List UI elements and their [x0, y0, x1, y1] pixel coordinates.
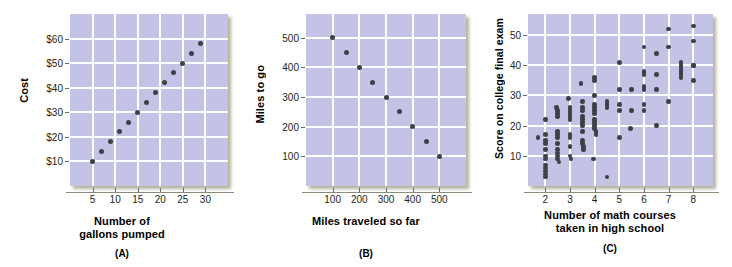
gridline-horizontal: [306, 155, 466, 157]
x-axis-tick-label: 7: [666, 194, 672, 205]
panel-a-x-axis-label: Number of gallons pumped: [0, 215, 244, 241]
gridline-horizontal: [528, 125, 713, 127]
x-axis-tick-mark: [439, 188, 440, 192]
data-point: [691, 78, 696, 83]
y-axis-tick-label: 200: [282, 121, 299, 132]
y-axis-tick-label: 30: [510, 90, 521, 101]
y-axis-tick-label: $50: [46, 58, 63, 69]
data-point: [568, 117, 573, 122]
y-axis-tick-mark: [65, 39, 69, 40]
x-axis-tick-mark: [644, 188, 645, 192]
data-point: [555, 114, 560, 119]
data-point: [628, 126, 633, 131]
y-axis-tick-mark: [301, 127, 305, 128]
data-point: [654, 51, 659, 56]
x-axis-tick-mark: [619, 188, 620, 192]
data-point: [580, 129, 585, 134]
x-axis-tick-label: 20: [155, 194, 166, 205]
panel-a-x-axis-label-line2: gallons pumped: [79, 228, 165, 240]
x-axis-tick-label: 100: [324, 194, 341, 205]
data-point: [579, 81, 584, 86]
data-point: [536, 135, 541, 140]
data-point: [691, 63, 696, 68]
y-axis-tick-mark: [523, 126, 527, 127]
gridline-horizontal: [70, 111, 228, 113]
y-axis-tick-mark: [301, 97, 305, 98]
x-axis-tick-label: 400: [404, 194, 421, 205]
panel-c-x-axis-label-line1: Number of math courses: [544, 209, 676, 221]
x-axis-tick-label: 5: [616, 194, 622, 205]
panel-c-x-axis-label-line2: taken in high school: [556, 222, 664, 234]
x-axis-tick-label: 30: [200, 194, 211, 205]
panel-b-x-axis-label-line1: Miles traveled so far: [312, 215, 420, 227]
data-point: [397, 109, 402, 114]
data-point: [592, 78, 597, 83]
panel-b-plot-wrap: [306, 14, 466, 186]
y-axis-tick-mark: [301, 38, 305, 39]
data-point: [691, 24, 696, 29]
x-axis-tick-label: 3: [567, 194, 573, 205]
data-point: [568, 144, 573, 149]
data-point: [569, 157, 574, 162]
panel-c-plot-area: [528, 14, 713, 186]
data-point: [629, 87, 634, 92]
y-axis-tick-label: 40: [510, 60, 521, 71]
x-axis-tick-label: 2: [542, 194, 548, 205]
data-point: [117, 129, 122, 134]
gridline-vertical: [438, 14, 440, 186]
x-axis-tick-label: 5: [90, 194, 96, 205]
x-axis-tick-label: 200: [351, 194, 368, 205]
data-point: [591, 157, 596, 162]
panel-b-tag: (B): [244, 248, 488, 259]
data-point: [90, 159, 95, 164]
panel-c-plot-wrap: [528, 14, 713, 186]
gridline-horizontal: [70, 136, 228, 138]
x-axis-tick-mark: [570, 188, 571, 192]
data-point: [679, 69, 684, 74]
data-point: [617, 87, 622, 92]
y-axis-tick-label: $30: [46, 107, 63, 118]
y-axis-tick-label: 10: [510, 150, 521, 161]
panel-a-x-axis-label-line1: Number of: [94, 215, 150, 227]
y-axis-tick-mark: [523, 95, 527, 96]
y-axis-tick-label: $60: [46, 33, 63, 44]
data-point: [654, 87, 659, 92]
data-point: [344, 50, 349, 55]
data-point: [410, 124, 415, 129]
panel-c-y-axis-label: Score on college final exam: [493, 18, 505, 159]
data-point: [654, 72, 659, 77]
data-point: [666, 45, 671, 50]
data-point: [162, 80, 167, 85]
data-point: [679, 75, 684, 80]
data-point: [144, 100, 149, 105]
x-axis-tick-label: 15: [132, 194, 143, 205]
y-axis-tick-mark: [301, 156, 305, 157]
data-point: [605, 175, 610, 180]
panel-b: 100200300400500100200300400500 Miles to …: [244, 0, 488, 267]
x-axis-tick-mark: [359, 188, 360, 192]
data-point: [642, 102, 647, 107]
x-axis-tick-label: 8: [690, 194, 696, 205]
y-axis-tick-label: 400: [282, 62, 299, 73]
x-axis-tick-mark: [669, 188, 670, 192]
x-axis-line: [524, 192, 719, 193]
panel-c-x-axis-label: Number of math courses taken in high sch…: [488, 209, 732, 235]
gridline-horizontal: [70, 38, 228, 40]
x-axis-tick-mark: [693, 188, 694, 192]
data-point: [691, 39, 696, 44]
data-point: [654, 123, 659, 128]
data-point: [629, 108, 634, 113]
data-point: [189, 51, 194, 56]
data-point: [180, 61, 185, 66]
gridline-horizontal: [306, 126, 466, 128]
data-point: [543, 141, 548, 146]
data-point: [580, 108, 585, 113]
data-point: [642, 108, 647, 113]
data-point: [580, 99, 585, 104]
data-point: [437, 154, 442, 159]
y-axis-tick-mark: [301, 67, 305, 68]
gridline-vertical: [643, 14, 645, 186]
data-point: [617, 135, 622, 140]
gridline-horizontal: [70, 62, 228, 64]
data-point: [617, 60, 622, 65]
